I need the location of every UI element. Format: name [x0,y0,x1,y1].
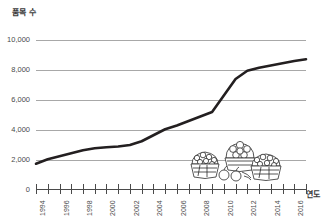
x-tick-2003 [142,184,143,194]
x-tick-2001 [118,184,119,194]
x-tick-2002 [130,184,131,194]
x-tick-2004 [153,184,154,194]
line-chart: 품목 수 연도 10,000 8,000 6,000 4,000 2,000 0… [0,0,334,219]
x-tick-1996 [60,184,61,194]
x-tick-label-2008: 2008 [203,200,210,216]
x-tick-label-2010: 2010 [227,200,234,216]
x-tick-1998 [83,184,84,194]
y-axis-title: 품목 수 [12,6,36,17]
x-tick-label-1996: 1996 [63,200,70,216]
x-tick-2016 [294,184,295,194]
y-tick-label-8000: 8,000 [0,65,30,74]
x-tick-2005 [165,184,166,194]
x-tick-label-1994: 1994 [39,200,46,216]
x-tick-label-2016: 2016 [297,200,304,216]
x-tick-1999 [95,184,96,194]
y-tick-label-4000: 4,000 [0,125,30,134]
x-tick-2006 [177,184,178,194]
x-tick-label-2006: 2006 [180,200,187,216]
x-tick-label-2000: 2000 [109,200,116,216]
x-tick-label-2014: 2014 [274,200,281,216]
y-tick-label-10000: 10,000 [0,35,30,44]
x-tick-2000 [106,184,107,194]
y-tick-label-2000: 2,000 [0,155,30,164]
x-tick-1997 [71,184,72,194]
x-tick-label-2002: 2002 [133,200,140,216]
x-tick-1995 [48,184,49,194]
x-tick-label-2012: 2012 [250,200,257,216]
x-tick-1994 [36,184,37,194]
x-axis-title: 연도 [306,188,320,199]
y-tick-label-0: 0 [0,185,30,194]
y-tick-label-6000: 6,000 [0,95,30,104]
x-axis-line [36,189,306,190]
fruit-baskets-illustration [186,124,292,186]
x-tick-label-2004: 2004 [156,200,163,216]
x-tick-label-1998: 1998 [86,200,93,216]
x-tick-2017 [306,184,307,194]
